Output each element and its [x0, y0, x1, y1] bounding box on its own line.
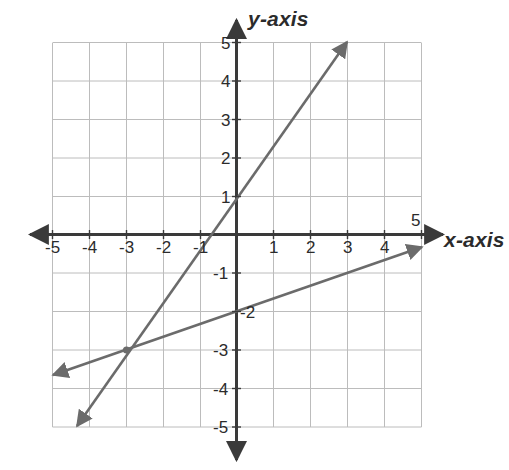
y-tick-label-neg2: -2	[240, 304, 255, 321]
coordinate-plane-canvas	[0, 0, 509, 470]
x-tick-label-neg1: -1	[193, 239, 208, 256]
y-tick-label-neg5: -5	[213, 419, 228, 436]
lines-intersection-point	[123, 346, 130, 353]
y-tick-label-pos5: 5	[221, 35, 230, 52]
y-axis-label: y-axis	[248, 8, 309, 29]
y-tick-label-neg3: -3	[213, 342, 228, 359]
y-tick-label-pos4: 4	[221, 73, 230, 90]
x-axis-label: x-axis	[444, 229, 505, 250]
y-tick-label-pos3: 3	[221, 112, 230, 129]
x-tick-label-pos4: 4	[380, 239, 389, 256]
graph-figure: -5 -4 -3 -2 -1 1 2 3 4 5 5 4 3 2 1 -1 -2…	[0, 0, 509, 470]
y-tick-label-pos1: 1	[221, 189, 230, 206]
x-tick-label-pos2: 2	[306, 239, 315, 256]
x-tick-label-pos1: 1	[269, 239, 278, 256]
x-tick-label-neg4: -4	[82, 239, 97, 256]
y-tick-label-pos2: 2	[221, 150, 230, 167]
x-tick-label-neg3: -3	[119, 239, 134, 256]
x-tick-label-pos3: 3	[343, 239, 352, 256]
x-tick-label-neg5: -5	[45, 239, 60, 256]
x-tick-label-pos5: 5	[411, 212, 420, 229]
y-tick-label-neg1: -1	[213, 265, 228, 282]
x-tick-label-neg2: -2	[156, 239, 171, 256]
y-tick-label-neg4: -4	[213, 381, 228, 398]
